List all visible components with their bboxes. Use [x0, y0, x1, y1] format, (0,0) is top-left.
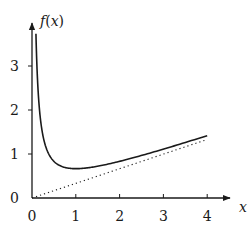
f-curve [36, 34, 207, 169]
x-tick-label: 4 [203, 208, 212, 224]
x-tick-label: 2 [115, 208, 124, 224]
y-axis-label: f(x) [39, 13, 64, 29]
plot-area [32, 34, 207, 198]
x-tick-label: 0 [28, 208, 37, 224]
y-ticks: 0123 [10, 58, 32, 206]
x-tick-label: 1 [71, 208, 80, 224]
y-tick-label: 2 [10, 102, 19, 118]
asymptote-line [32, 139, 207, 198]
y-tick-label: 3 [10, 58, 19, 74]
chart-canvas: 01234 0123 x f(x) [0, 0, 251, 234]
y-tick-label: 0 [10, 190, 19, 206]
y-tick-label: 1 [10, 146, 19, 162]
x-tick-label: 3 [159, 208, 168, 224]
x-axis-label: x [239, 199, 247, 215]
